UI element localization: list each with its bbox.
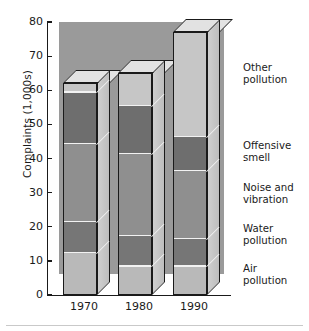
legend-entry-other[interactable]: Otherpollution	[243, 62, 309, 85]
y-tick-label: 10	[3, 255, 43, 266]
segment-1980-water-pollution[interactable]	[119, 236, 151, 267]
y-tick-mark	[47, 158, 52, 159]
legend-entry-air[interactable]: Airpollution	[243, 263, 309, 286]
segment-separator	[119, 265, 151, 266]
bar-column-1990[interactable]	[173, 32, 207, 295]
segment-separator	[119, 153, 151, 154]
bar-column-1980[interactable]	[118, 73, 152, 295]
segment-1980-air-pollution[interactable]	[119, 267, 151, 294]
segment-1990-air-pollution[interactable]	[174, 267, 206, 294]
legend-label-line1: Air	[243, 263, 309, 275]
y-tick-mark	[47, 226, 52, 227]
x-tick-label-1980: 1980	[109, 300, 169, 313]
y-tick-mark	[47, 260, 52, 261]
y-tick-label: 60	[3, 84, 43, 95]
legend-label-line2: vibration	[243, 194, 309, 206]
segment-separator	[174, 265, 206, 266]
bar-side-face-1970	[97, 70, 110, 295]
legend-label-line2: pollution	[243, 235, 309, 247]
y-tick-label: 30	[3, 187, 43, 198]
y-tick-label: 40	[3, 153, 43, 164]
bar-column-1970[interactable]	[63, 83, 97, 295]
legend-label-line1: Noise and	[243, 182, 309, 194]
segment-separator	[119, 235, 151, 236]
y-tick-mark	[47, 90, 52, 91]
segment-separator	[64, 252, 96, 253]
segment-separator	[174, 136, 206, 137]
segment-separator	[174, 238, 206, 239]
bar-front-face-1990	[173, 32, 207, 295]
legend-label-line1: Other	[243, 62, 309, 74]
bar-top-face-1990	[173, 19, 233, 32]
legend-label-line2: pollution	[243, 275, 309, 287]
segment-separator	[64, 143, 96, 144]
legend-label-line1: Offensive	[243, 140, 309, 152]
bottom-divider	[6, 325, 303, 326]
y-tick-mark	[47, 124, 52, 125]
segment-separator	[119, 105, 151, 106]
x-tick-label-1970: 1970	[54, 300, 114, 313]
y-tick-label: 20	[3, 221, 43, 232]
bar-front-face-1970	[63, 83, 97, 295]
segment-separator	[64, 91, 96, 92]
y-tick-mark	[47, 56, 52, 57]
segment-1980-offensive-smell[interactable]	[119, 106, 151, 154]
y-tick-label: 80	[3, 16, 43, 27]
segment-1970-noise-and-vibration[interactable]	[64, 144, 96, 222]
bar-front-face-1980	[118, 73, 152, 295]
y-tick-label: 50	[3, 118, 43, 129]
segment-separator	[64, 221, 96, 222]
segment-1980-noise-and-vibration[interactable]	[119, 154, 151, 236]
legend-entry-water[interactable]: Waterpollution	[243, 223, 309, 246]
legend-entry-offensive[interactable]: Offensivesmell	[243, 140, 309, 163]
segment-1990-water-pollution[interactable]	[174, 239, 206, 266]
legend-entry-noise-and[interactable]: Noise andvibration	[243, 182, 309, 205]
legend-label-line2: smell	[243, 152, 309, 164]
segment-1990-other-pollution[interactable]	[174, 32, 206, 137]
y-tick-label: 70	[3, 50, 43, 61]
chart-figure: Complaints (1,000s) 01020304050607080 19…	[0, 0, 309, 331]
y-tick-mark	[47, 294, 52, 295]
y-tick-mark	[47, 192, 52, 193]
segment-1990-offensive-smell[interactable]	[174, 137, 206, 171]
segment-1990-noise-and-vibration[interactable]	[174, 171, 206, 239]
segment-separator	[174, 170, 206, 171]
legend-label-line1: Water	[243, 223, 309, 235]
x-axis-line	[47, 295, 231, 296]
segment-1970-water-pollution[interactable]	[64, 222, 96, 253]
x-tick-label-1990: 1990	[164, 300, 224, 313]
segment-1970-air-pollution[interactable]	[64, 253, 96, 294]
y-tick-label: 0	[3, 289, 43, 300]
legend-label-line2: pollution	[243, 74, 309, 86]
y-tick-mark	[47, 21, 52, 22]
segment-1980-other-pollution[interactable]	[119, 73, 151, 106]
segment-1970-offensive-smell[interactable]	[64, 93, 96, 144]
